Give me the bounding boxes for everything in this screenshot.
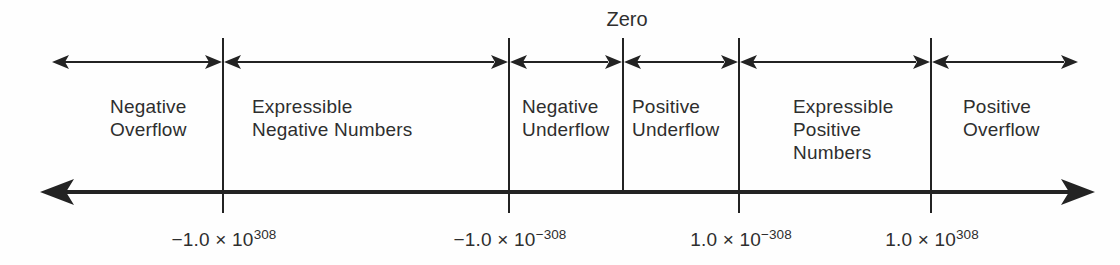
region-label-line: Negative <box>522 95 609 118</box>
region-label-line: Negative Numbers <box>252 118 413 141</box>
region-label-line: Expressible <box>793 95 893 118</box>
region-label-negative-underflow: Negative Underflow <box>522 95 609 141</box>
boundary-value-base: −1.0 × 10 <box>454 229 536 250</box>
region-label-line: Positive <box>632 95 719 118</box>
boundary-value-exponent: 308 <box>254 227 277 242</box>
range-arrow-negative-overflow <box>52 55 222 69</box>
boundary-value-base: −1.0 × 10 <box>172 229 254 250</box>
boundary-value-negative-min: −1.0 × 10−308 <box>454 224 567 251</box>
floating-point-number-line-diagram: Zero Negative Overflow Expressible Negat… <box>0 0 1120 265</box>
region-label-positive-overflow: Positive Overflow <box>963 95 1040 141</box>
region-label-line: Positive <box>793 118 893 141</box>
boundary-value-exponent: −308 <box>536 227 567 242</box>
boundary-value-exponent: −308 <box>761 227 792 242</box>
region-label-line: Expressible <box>252 95 413 118</box>
region-label-line: Overflow <box>110 118 187 141</box>
boundary-value-negative-max: −1.0 × 10308 <box>172 224 277 251</box>
region-label-line: Underflow <box>632 118 719 141</box>
boundary-value-positive-min: 1.0 × 10−308 <box>690 224 792 251</box>
region-label-positive-underflow: Positive Underflow <box>632 95 719 141</box>
boundary-value-exponent: 308 <box>956 227 979 242</box>
range-arrow-positive-overflow <box>932 55 1078 69</box>
region-label-expressible-positive-numbers: Expressible Positive Numbers <box>793 95 893 164</box>
region-label-line: Overflow <box>963 118 1040 141</box>
range-arrow-expressible-positive-numbers <box>740 55 930 69</box>
number-line <box>40 179 1095 205</box>
region-label-line: Underflow <box>522 118 609 141</box>
range-arrow-positive-underflow <box>624 55 738 69</box>
boundary-value-base: 1.0 × 10 <box>885 229 956 250</box>
region-label-line: Negative <box>110 95 187 118</box>
region-label-expressible-negative-numbers: Expressible Negative Numbers <box>252 95 413 141</box>
range-arrow-negative-underflow <box>510 55 622 69</box>
region-label-line: Numbers <box>793 141 893 164</box>
region-label-line: Positive <box>963 95 1040 118</box>
region-label-negative-overflow: Negative Overflow <box>110 95 187 141</box>
zero-label: Zero <box>606 8 647 31</box>
boundary-value-positive-max: 1.0 × 10308 <box>885 224 979 251</box>
boundary-value-base: 1.0 × 10 <box>690 229 761 250</box>
range-arrow-expressible-negative-numbers <box>224 55 508 69</box>
